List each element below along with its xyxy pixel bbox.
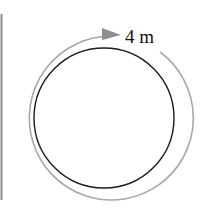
circle-shape xyxy=(34,48,174,188)
arrowhead-icon xyxy=(102,28,121,40)
circumference-label: 4 m xyxy=(125,26,154,47)
circle-diagram: 4 m xyxy=(0,0,206,209)
circumference-arc xyxy=(29,36,193,200)
